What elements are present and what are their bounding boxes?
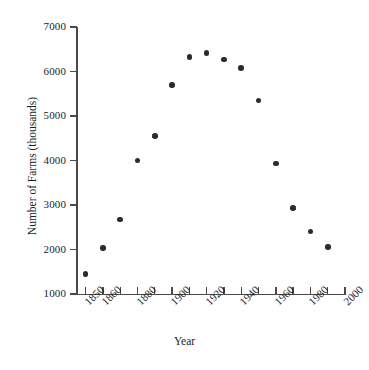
data-point bbox=[135, 158, 141, 164]
y-axis-tick bbox=[70, 115, 77, 116]
data-point bbox=[273, 161, 279, 167]
y-axis-tick-label: 7000 bbox=[26, 20, 66, 32]
data-point bbox=[221, 57, 227, 63]
data-point bbox=[187, 54, 193, 60]
y-axis-tick bbox=[70, 293, 77, 294]
y-axis-tick bbox=[70, 160, 77, 161]
data-point bbox=[169, 82, 175, 88]
y-axis-tick bbox=[70, 26, 77, 27]
data-point bbox=[152, 133, 158, 139]
y-axis-tick bbox=[70, 71, 77, 72]
y-axis-title: Number of Farms (thousands) bbox=[26, 56, 38, 276]
data-point bbox=[308, 229, 314, 235]
data-point bbox=[83, 271, 89, 277]
plot-area bbox=[77, 27, 345, 294]
y-axis-tick-label: 1000 bbox=[26, 287, 66, 299]
data-point bbox=[325, 244, 331, 250]
x-axis-title: Year bbox=[0, 335, 369, 347]
data-point bbox=[204, 50, 210, 56]
y-axis-tick bbox=[70, 204, 77, 205]
data-point bbox=[238, 65, 244, 71]
data-point bbox=[100, 245, 106, 251]
data-point bbox=[290, 205, 296, 211]
chart-page: 1000200030004000500060007000 18501860188… bbox=[0, 0, 369, 370]
y-axis-tick bbox=[70, 249, 77, 250]
data-point bbox=[256, 98, 262, 104]
data-point bbox=[117, 217, 123, 223]
